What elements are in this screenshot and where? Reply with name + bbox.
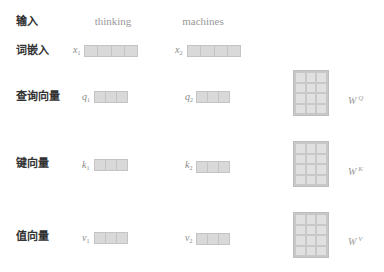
key-vector-k1	[94, 159, 128, 171]
value-v1-label: v1	[82, 232, 89, 247]
vector-cell	[219, 92, 229, 102]
matrix-cell	[317, 84, 326, 93]
weight-matrix-query	[293, 70, 329, 116]
matrix-cell	[317, 73, 326, 82]
vector-cell	[215, 46, 228, 56]
query-q2-label: q2	[185, 91, 193, 106]
query-q1-label: q1	[82, 91, 90, 106]
subscript: 1	[77, 50, 80, 56]
embedding-x2-label: x2	[175, 44, 182, 59]
value-vector-v2	[196, 233, 230, 245]
matrix-cell	[307, 105, 316, 114]
matrix-cell	[307, 84, 316, 93]
symbol: W	[348, 236, 356, 247]
matrix-cell	[307, 247, 316, 256]
matrix-cell	[317, 165, 326, 174]
vector-cell	[98, 46, 111, 56]
matrix-cell	[307, 215, 316, 224]
row-label-key: 键向量	[16, 158, 49, 170]
matrix-cell	[317, 215, 326, 224]
vector-cell	[228, 46, 240, 56]
vector-cell	[85, 46, 98, 56]
superscript: V	[358, 235, 362, 243]
weight-matrix-value	[293, 212, 329, 258]
vector-cell	[117, 160, 127, 170]
matrix-cell	[307, 94, 316, 103]
matrix-cell	[317, 105, 326, 114]
weight-label-wk: WK	[348, 163, 363, 178]
embedding-vector-x2	[187, 45, 241, 57]
key-vector-k2	[196, 161, 230, 173]
matrix-cell	[296, 105, 305, 114]
input-word-thinking: thinking	[95, 15, 132, 27]
symbol: W	[348, 95, 356, 106]
subscript: 2	[179, 50, 182, 56]
vector-cell	[208, 92, 219, 102]
vector-cell	[197, 162, 208, 172]
matrix-cell	[296, 226, 305, 235]
matrix-cell	[296, 176, 305, 185]
matrix-cell	[317, 226, 326, 235]
key-k2-label: k2	[185, 159, 192, 174]
row-label-embedding: 词嵌入	[16, 45, 49, 57]
matrix-cell	[307, 73, 316, 82]
vector-cell	[201, 46, 214, 56]
weight-label-wv: WV	[348, 233, 363, 248]
matrix-cell	[296, 84, 305, 93]
matrix-cell	[317, 155, 326, 164]
matrix-cell	[317, 94, 326, 103]
matrix-cell	[296, 73, 305, 82]
matrix-cell	[296, 155, 305, 164]
vector-cell	[197, 234, 208, 244]
vector-cell	[95, 160, 106, 170]
matrix-cell	[296, 165, 305, 174]
subscript: 2	[190, 97, 193, 103]
key-k1-label: k1	[82, 159, 89, 174]
vector-cell	[197, 92, 208, 102]
vector-cell	[117, 233, 127, 243]
vector-cell	[208, 234, 219, 244]
matrix-cell	[307, 155, 316, 164]
vector-cell	[112, 46, 125, 56]
matrix-cell	[296, 215, 305, 224]
subscript: 1	[86, 238, 89, 244]
matrix-cell	[296, 236, 305, 245]
weight-matrix-key	[293, 141, 329, 187]
matrix-cell	[317, 176, 326, 185]
subscript: 2	[189, 238, 192, 244]
matrix-cell	[307, 165, 316, 174]
subscript: 1	[86, 165, 89, 171]
superscript: Q	[358, 94, 363, 102]
vector-cell	[106, 160, 117, 170]
matrix-cell	[317, 247, 326, 256]
symbol: W	[348, 166, 356, 177]
value-v2-label: v2	[185, 232, 192, 247]
vector-cell	[106, 92, 117, 102]
input-word-machines: machines	[182, 15, 224, 27]
embedding-vector-x1	[84, 45, 138, 57]
row-label-query: 查询向量	[16, 91, 60, 103]
subscript: 2	[189, 165, 192, 171]
vector-cell	[208, 162, 219, 172]
vector-cell	[219, 162, 229, 172]
matrix-cell	[307, 226, 316, 235]
superscript: K	[358, 165, 363, 173]
matrix-cell	[296, 144, 305, 153]
weight-label-wq: WQ	[348, 92, 363, 107]
matrix-cell	[307, 144, 316, 153]
vector-cell	[95, 92, 106, 102]
query-vector-q2	[196, 91, 230, 103]
subscript: 1	[87, 97, 90, 103]
vector-cell	[188, 46, 201, 56]
vector-cell	[219, 234, 229, 244]
value-vector-v1	[94, 232, 128, 244]
row-label-input: 输入	[16, 16, 38, 28]
vector-cell	[117, 92, 127, 102]
matrix-cell	[307, 236, 316, 245]
vector-cell	[95, 233, 106, 243]
vector-cell	[106, 233, 117, 243]
matrix-cell	[296, 94, 305, 103]
matrix-cell	[317, 236, 326, 245]
matrix-cell	[296, 247, 305, 256]
query-vector-q1	[94, 91, 128, 103]
